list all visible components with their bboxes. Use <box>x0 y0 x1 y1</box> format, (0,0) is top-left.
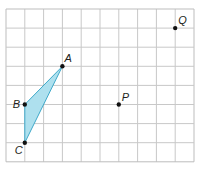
point-a-label: A <box>63 52 71 64</box>
grid-lines <box>6 9 194 162</box>
coordinate-grid-diagram: ABCPQ <box>0 0 202 170</box>
point-q-label: Q <box>178 14 187 26</box>
point-q-dot <box>173 26 177 30</box>
point-a-dot <box>60 64 64 68</box>
point-p-label: P <box>122 91 130 103</box>
point-p-dot <box>117 102 121 106</box>
point-c-label: C <box>15 144 23 156</box>
point-b-label: B <box>13 98 20 110</box>
point-c-dot <box>23 141 27 145</box>
point-b-dot <box>23 102 27 106</box>
